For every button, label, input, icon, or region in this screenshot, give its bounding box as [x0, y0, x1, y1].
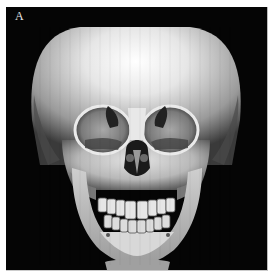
panel-label: A: [15, 9, 24, 24]
figure-panel: A: [6, 7, 268, 271]
skull-rendering: [6, 7, 267, 270]
